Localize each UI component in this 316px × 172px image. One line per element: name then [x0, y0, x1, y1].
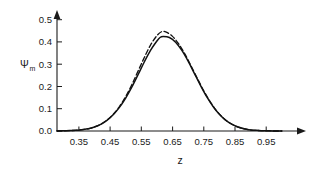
x-axis-title: z	[177, 154, 182, 166]
y-axis-title-symbol: Ψ	[20, 58, 29, 70]
y-tick-label-1: 0.1	[39, 103, 52, 114]
y-axis-title: Ψ m	[20, 58, 36, 72]
y-tick-label-4: 0.4	[39, 36, 52, 47]
y-axis: 0.0 0.1 0.2 0.3 0.4 0.5	[39, 10, 62, 136]
y-tick-label-2: 0.2	[39, 81, 52, 92]
x-tick-label-0: 0.35	[70, 136, 89, 147]
x-tick-label-3: 0.65	[163, 136, 182, 147]
x-tick-label-4: 0.75	[195, 136, 214, 147]
series-solid-curve	[57, 37, 282, 131]
x-tick-label-6: 0.95	[257, 136, 276, 147]
y-axis-arrowhead	[54, 10, 61, 19]
series-dashed-curve	[57, 31, 282, 131]
x-tick-label-5: 0.85	[226, 136, 245, 147]
y-tick-label-0: 0.0	[39, 125, 52, 136]
x-tick-label-2: 0.55	[132, 136, 151, 147]
y-tick-label-5: 0.5	[39, 14, 52, 25]
y-axis-title-subscript: m	[30, 65, 36, 72]
y-tick-label-3: 0.3	[39, 59, 52, 70]
x-axis: 0.35 0.45 0.55 0.65 0.75 0.85 0.95	[57, 127, 306, 148]
x-axis-arrowhead	[297, 128, 306, 135]
chart-figure: 0.0 0.1 0.2 0.3 0.4 0.5 Ψ m 0.35 0.45 0.…	[0, 0, 316, 172]
x-tick-label-1: 0.45	[101, 136, 120, 147]
